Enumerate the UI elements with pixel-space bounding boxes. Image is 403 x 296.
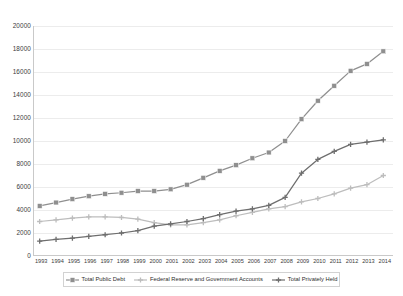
gridline: [34, 72, 393, 73]
x-axis-tick-label: 1996: [81, 259, 99, 265]
y-axis-tick-label: 0: [1, 253, 31, 259]
x-axis-tick-label: 2007: [261, 259, 279, 265]
gridline: [34, 210, 393, 211]
gridline: [34, 187, 393, 188]
x-axis-tick-label: 2006: [245, 259, 263, 265]
x-axis-tick-label: 1994: [49, 259, 67, 265]
legend-label: Total Privately Held: [288, 277, 338, 283]
data-point-marker: [276, 277, 281, 282]
chart-legend: Total Public DebtFederal Reserve and Gov…: [63, 272, 340, 287]
x-axis-tick-label: 1995: [65, 259, 83, 265]
x-axis-tick-label: 2002: [179, 259, 197, 265]
gridline: [34, 233, 393, 234]
data-point-marker: [138, 277, 143, 282]
x-axis: 1993199419951996199719981999200020012002…: [33, 259, 393, 271]
x-axis-tick-label: 2011: [327, 259, 345, 265]
x-axis-tick-label: 1993: [32, 259, 50, 265]
legend-item-1[interactable]: Total Public Debt: [66, 276, 126, 284]
legend-marker-icon: [134, 276, 147, 284]
y-axis-tick-label: 4000: [1, 207, 31, 213]
y-axis-tick-label: 16000: [1, 69, 31, 75]
x-axis-tick-label: 2005: [229, 259, 247, 265]
x-axis-tick-label: 2012: [343, 259, 361, 265]
gridline: [34, 164, 393, 165]
gridline: [34, 49, 393, 50]
legend-item-3[interactable]: Total Privately Held: [272, 276, 338, 284]
gridline: [34, 95, 393, 96]
y-axis-tick-label: 14000: [1, 92, 31, 98]
x-axis-tick-label: 2008: [278, 259, 296, 265]
x-axis-tick-label: 2004: [212, 259, 230, 265]
legend-marker-icon: [66, 276, 79, 284]
x-axis-tick-label: 2010: [310, 259, 328, 265]
y-axis-tick-label: 20000: [1, 23, 31, 29]
y-axis-tick-label: 6000: [1, 184, 31, 190]
x-axis-tick-label: 2013: [359, 259, 377, 265]
x-axis-tick-label: 2001: [163, 259, 181, 265]
x-axis-tick-label: 2014: [376, 259, 394, 265]
data-point-marker: [70, 277, 75, 282]
legend-item-2[interactable]: Federal Reserve and Government Accounts: [134, 276, 263, 284]
gridline: [34, 26, 393, 27]
legend-label: Total Public Debt: [82, 277, 126, 283]
gridline: [34, 118, 393, 119]
x-axis-tick-label: 1997: [98, 259, 116, 265]
y-axis-tick-label: 12000: [1, 115, 31, 121]
x-axis-tick-label: 2009: [294, 259, 312, 265]
y-axis-tick-label: 2000: [1, 230, 31, 236]
gridline: [34, 141, 393, 142]
legend-label: Federal Reserve and Government Accounts: [150, 277, 263, 283]
plot-area: [33, 26, 393, 256]
y-axis: 0200040006000800010000120001400016000180…: [0, 0, 31, 256]
y-axis-tick-label: 18000: [1, 46, 31, 52]
chart-container: 0200040006000800010000120001400016000180…: [0, 0, 403, 296]
legend-marker-icon: [272, 276, 285, 284]
y-axis-tick-label: 8000: [1, 161, 31, 167]
x-axis-tick-label: 1998: [114, 259, 132, 265]
y-axis-tick-label: 10000: [1, 138, 31, 144]
x-axis-tick-label: 2003: [196, 259, 214, 265]
x-axis-tick-label: 1999: [130, 259, 148, 265]
x-axis-tick-label: 2000: [147, 259, 165, 265]
